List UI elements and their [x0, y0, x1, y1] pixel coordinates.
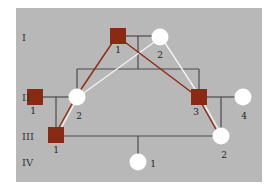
individual-number-I-1: 1 [115, 45, 121, 55]
female-III-2 [213, 128, 230, 145]
female-I-2 [152, 29, 169, 46]
individual-number-III-2: 2 [221, 150, 227, 160]
individual-number-III-1: 1 [53, 145, 59, 155]
individual-number-I-2: 2 [157, 50, 163, 60]
generation-label-III: III [22, 131, 34, 142]
female-II-2 [69, 89, 86, 106]
individual-number-IV-1: 1 [150, 159, 156, 169]
path-red-I-1-II-3 [117, 36, 198, 97]
affected-male-III-1 [48, 127, 64, 143]
female-II-4 [235, 89, 252, 106]
affected-male-II-3 [191, 89, 207, 105]
generation-label-II: II [22, 92, 30, 103]
path-white-I-2-II-3 [161, 37, 200, 97]
individual-number-II-4: 4 [241, 111, 247, 121]
affected-male-I-1 [110, 28, 126, 44]
female-IV-1 [130, 154, 147, 171]
path-red-I-1-II-2 [76, 36, 117, 97]
individual-number-II-3: 3 [193, 107, 199, 117]
individual-number-II-1: 1 [30, 106, 36, 116]
pedigree-chart: 121234121IIIIIIIV [0, 0, 275, 186]
individual-number-II-2: 2 [76, 111, 82, 121]
generation-label-IV: IV [22, 157, 34, 168]
pedigree-figure: 121234121IIIIIIIV [0, 0, 275, 186]
generation-label-I: I [22, 32, 26, 43]
